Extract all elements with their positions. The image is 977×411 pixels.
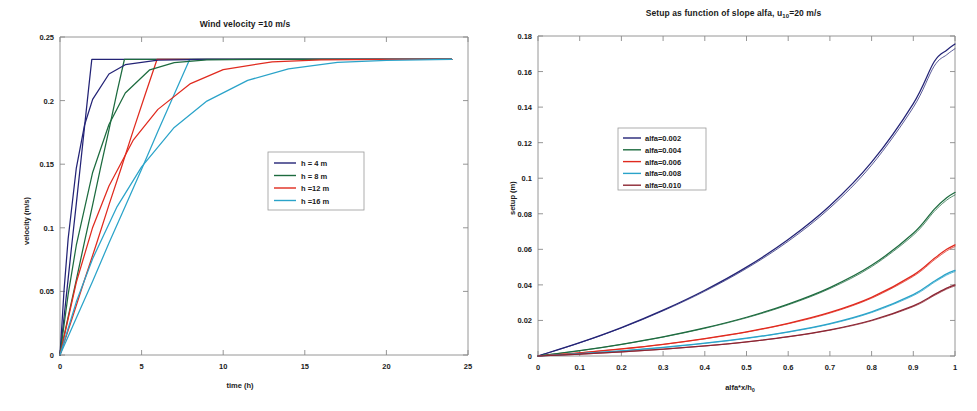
right-x-axis-label: alfa*x/h0 xyxy=(685,383,795,392)
right-curve-pair-4 xyxy=(538,286,955,356)
left-curve-6 xyxy=(60,59,452,355)
left-axes-frame xyxy=(60,37,468,355)
left-plot-canvas: 051015202500.050.10.150.20.25h = 4 mh = … xyxy=(0,0,490,411)
right-x-tick-label: 0.3 xyxy=(658,363,668,372)
left-x-tick-label: 25 xyxy=(464,362,472,371)
right-plot-canvas: 00.10.20.30.40.50.60.70.80.9100.020.040.… xyxy=(490,0,977,411)
left-x-tick-label: 10 xyxy=(219,362,227,371)
right-y-tick-label: 0.1 xyxy=(522,174,532,183)
right-y-tick-label: 0.18 xyxy=(517,32,532,41)
right-x-tick-label: 0.8 xyxy=(866,363,876,372)
right-x-tick-label: 0.1 xyxy=(574,363,584,372)
left-curve-7 xyxy=(60,59,452,355)
left-y-tick-label: 0 xyxy=(50,351,54,360)
wind-velocity-panel: Wind velocity =10 m/s 051015202500.050.1… xyxy=(0,0,490,411)
setup-panel: Setup as function of slope alfa, u10=20 … xyxy=(490,0,977,411)
right-y-axis-label: setup (m) xyxy=(508,181,517,215)
left-x-tick-label: 15 xyxy=(301,362,309,371)
left-legend-label-2: h =12 m xyxy=(301,184,329,193)
left-curve-5 xyxy=(60,59,452,355)
left-curve-3 xyxy=(60,59,452,355)
right-y-tick-label: 0.02 xyxy=(517,316,532,325)
left-curve-4 xyxy=(60,59,452,355)
right-curve-2 xyxy=(538,245,955,356)
right-y-tick-label: 0.14 xyxy=(517,103,532,112)
right-x-axis-label-subscript: 0 xyxy=(752,387,755,393)
right-legend-label-2: alfa=0.006 xyxy=(645,158,681,167)
right-y-tick-label: 0.06 xyxy=(517,245,532,254)
right-y-tick-label: 0.16 xyxy=(517,68,532,77)
left-curve-2 xyxy=(60,59,452,355)
figure-root: Wind velocity =10 m/s 051015202500.050.1… xyxy=(0,0,977,411)
left-y-axis-label: velocity (m/s) xyxy=(22,197,31,245)
right-x-tick-label: 0.7 xyxy=(825,363,835,372)
right-y-tick-label: 0.12 xyxy=(517,139,532,148)
right-curve-pair-2 xyxy=(538,247,955,356)
right-x-tick-label: 1 xyxy=(953,363,957,372)
right-y-tick-label: 0 xyxy=(528,352,532,361)
right-legend-label-3: alfa=0.008 xyxy=(645,169,681,178)
right-legend-label-0: alfa=0.002 xyxy=(645,134,681,143)
left-y-tick-label: 0.2 xyxy=(44,97,54,106)
right-x-tick-label: 0.5 xyxy=(741,363,751,372)
right-x-tick-label: 0.4 xyxy=(700,363,711,372)
left-legend-label-1: h = 8 m xyxy=(301,172,327,181)
right-curve-0 xyxy=(538,44,955,356)
left-y-tick-label: 0.15 xyxy=(39,160,54,169)
right-axes-frame xyxy=(538,36,955,356)
left-y-tick-label: 0.05 xyxy=(39,287,54,296)
right-x-axis-label-main: alfa*x/h xyxy=(725,383,752,392)
left-curve-0 xyxy=(60,59,452,355)
right-x-tick-label: 0 xyxy=(536,363,540,372)
left-x-tick-label: 20 xyxy=(382,362,390,371)
right-legend-label-4: alfa=0.010 xyxy=(645,181,681,190)
right-curve-pair-0 xyxy=(538,49,955,356)
right-legend-label-1: alfa=0.004 xyxy=(645,146,682,155)
right-x-tick-label: 0.6 xyxy=(783,363,793,372)
left-curve-1 xyxy=(60,59,452,355)
left-x-tick-label: 5 xyxy=(140,362,144,371)
right-x-tick-label: 0.9 xyxy=(908,363,918,372)
right-y-tick-label: 0.04 xyxy=(517,281,532,290)
left-x-axis-label: time (h) xyxy=(190,381,290,390)
right-curve-4 xyxy=(538,285,955,356)
left-y-tick-label: 0.1 xyxy=(44,224,54,233)
left-legend-label-3: h =16 m xyxy=(301,197,329,206)
left-y-tick-label: 0.25 xyxy=(39,33,54,42)
right-x-tick-label: 0.2 xyxy=(616,363,626,372)
left-legend-label-0: h = 4 m xyxy=(301,159,327,168)
right-y-tick-label: 0.08 xyxy=(517,210,532,219)
left-x-tick-label: 0 xyxy=(58,362,62,371)
